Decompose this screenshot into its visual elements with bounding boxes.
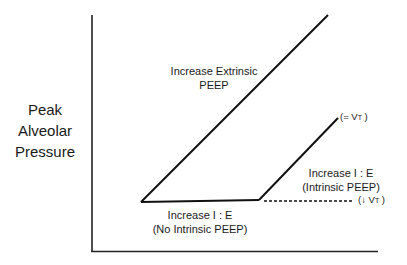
annotation-line: Increase I : E: [298, 166, 384, 180]
y-axis-label-line: Peak: [4, 99, 86, 120]
annotation-line: (No Intrinsic PEEP): [145, 222, 255, 236]
annotation-line: Increase Extrinsic: [164, 64, 264, 78]
no-intrinsic-peep-annotation: Increase I : E (No Intrinsic PEEP): [145, 208, 255, 236]
vt-down-suffix: ): [379, 194, 385, 205]
annotation-line: Increase I : E: [145, 208, 255, 222]
vt-equal-prefix: (= V: [340, 111, 358, 122]
no-intrinsic-peep-line: [141, 200, 259, 202]
intrinsic-peep-annotation: Increase I : E (Intrinsic PEEP): [298, 166, 384, 194]
vt-equal-label: (= VT ): [340, 111, 368, 123]
vt-down-label: (↓ VT ): [358, 194, 385, 206]
vt-down-prefix: (↓ V: [358, 194, 375, 205]
annotation-line: PEEP: [164, 78, 264, 92]
y-axis-label-line: Pressure: [4, 141, 86, 162]
y-axis-label-line: Alveolar: [4, 120, 86, 141]
extrinsic-peep-annotation: Increase Extrinsic PEEP: [164, 64, 264, 92]
vt-equal-suffix: ): [362, 111, 368, 122]
y-axis-label: Peak Alveolar Pressure: [4, 99, 86, 162]
annotation-line: (Intrinsic PEEP): [298, 180, 384, 194]
